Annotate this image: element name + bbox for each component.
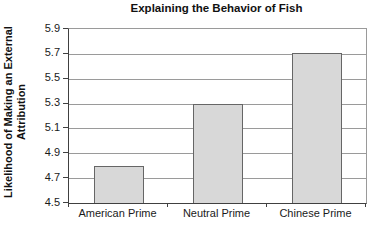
bar-american-prime (94, 166, 144, 203)
bar-chart: Explaining the Behavior of Fish Likeliho… (0, 0, 382, 230)
chart-title: Explaining the Behavior of Fish (68, 2, 365, 14)
y-tick-label: 5.1 (26, 121, 60, 134)
y-tick-mark (63, 152, 68, 153)
x-category-label: Neutral Prime (167, 207, 266, 219)
y-tick-mark (63, 28, 68, 29)
x-category-label: American Prime (68, 207, 167, 219)
y-tick-mark (63, 78, 68, 79)
y-tick-label: 5.9 (26, 22, 60, 35)
y-tick-mark (63, 53, 68, 54)
y-tick-label: 4.7 (26, 171, 60, 184)
y-tick-mark (63, 103, 68, 104)
x-tick-mark (365, 203, 366, 207)
y-tick-label: 5.7 (26, 46, 60, 59)
x-category-labels: American PrimeNeutral PrimeChinese Prime (68, 207, 365, 219)
y-tick-mark (63, 127, 68, 128)
bar-chinese-prime (292, 53, 342, 203)
y-tick-label: 5.3 (26, 96, 60, 109)
bar-neutral-prime (193, 104, 243, 203)
plot-area (68, 28, 367, 204)
y-axis-title-line1: Likelihood of Making an External (2, 17, 15, 207)
x-category-label: Chinese Prime (266, 207, 365, 219)
y-tick-mark (63, 177, 68, 178)
y-tick-label: 4.5 (26, 196, 60, 209)
y-tick-label: 4.9 (26, 146, 60, 159)
y-tick-label: 5.5 (26, 71, 60, 84)
